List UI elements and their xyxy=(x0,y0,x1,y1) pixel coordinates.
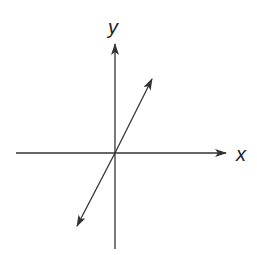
y-axis-label: y xyxy=(106,16,119,38)
axes-diagram: y x xyxy=(0,0,257,255)
x-axis-label: x xyxy=(235,143,247,165)
